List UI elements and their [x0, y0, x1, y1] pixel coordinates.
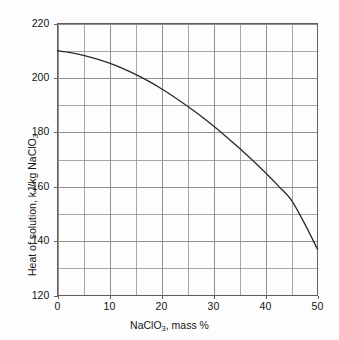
chart-figure: 120140160180200220 01020304050 Heat of s…	[0, 0, 339, 340]
y-axis-label-container: Heat of solution, kJ/kg NaClO3	[8, 0, 28, 300]
x-tick-label: 10	[97, 300, 123, 312]
grid-minor-lines	[58, 24, 318, 296]
y-axis-label: Heat of solution, kJ/kg NaClO3	[26, 134, 40, 276]
x-tick-label: 30	[201, 300, 227, 312]
plot-border	[58, 24, 318, 296]
data-series-line	[58, 51, 318, 250]
x-tick-label: 0	[45, 300, 71, 312]
x-tick-label: 40	[253, 300, 279, 312]
grid-major-lines	[58, 24, 318, 296]
axis-tick-marks	[54, 25, 319, 300]
x-tick-label: 50	[305, 300, 331, 312]
x-axis-label: NaClO3, mass %	[0, 319, 339, 333]
plot-canvas	[0, 0, 339, 340]
x-tick-label: 20	[149, 300, 175, 312]
